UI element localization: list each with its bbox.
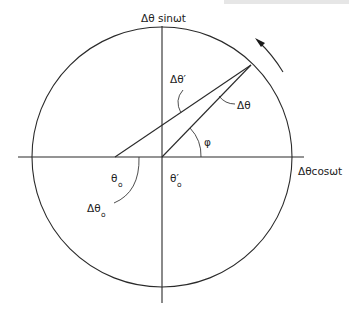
phasor-diagram: Δθ sinωt Δθcosωt Δθ′ Δθ φ θ o θ′ o Δθ o <box>0 0 357 316</box>
phi-arc <box>190 128 201 157</box>
phi-label: φ <box>204 136 211 148</box>
delta-theta-o-label: Δθ <box>87 202 101 214</box>
delta-theta-leader <box>219 96 235 104</box>
delta-theta-prime-arc <box>178 90 183 113</box>
horizontal-axis-label: Δθcosωt <box>298 165 342 177</box>
delta-theta-prime-label: Δθ′ <box>170 73 187 85</box>
delta-theta-o-subscript: o <box>101 210 106 219</box>
rotation-arrowhead-icon <box>255 38 265 47</box>
delta-theta-label: Δθ <box>237 99 251 111</box>
theta-o-label: θ <box>111 172 117 184</box>
vertical-axis-label: Δθ sinωt <box>141 12 186 24</box>
theta-o-prime-subscript: o <box>177 180 182 189</box>
theta-o-subscript: o <box>118 180 123 189</box>
